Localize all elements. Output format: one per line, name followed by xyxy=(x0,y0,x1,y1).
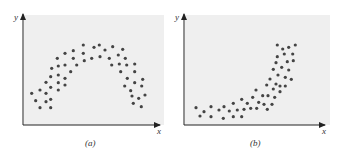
data-point xyxy=(217,108,220,111)
data-point xyxy=(242,108,245,111)
data-point xyxy=(137,97,140,100)
data-point xyxy=(283,52,286,55)
data-point xyxy=(257,101,260,104)
data-point xyxy=(49,75,52,78)
data-point xyxy=(82,43,85,46)
data-point xyxy=(274,82,277,85)
data-point xyxy=(194,106,197,109)
data-point xyxy=(141,78,144,81)
data-point xyxy=(124,57,127,60)
panel-b-x-label: x xyxy=(321,126,326,136)
data-point xyxy=(111,45,114,48)
data-point xyxy=(82,52,85,55)
data-point xyxy=(92,46,95,49)
data-point xyxy=(254,88,257,91)
data-point xyxy=(126,77,129,80)
data-point xyxy=(130,94,133,97)
data-point xyxy=(272,68,275,71)
data-point xyxy=(273,96,276,99)
data-point xyxy=(44,81,47,84)
data-point xyxy=(44,92,47,95)
data-point xyxy=(266,94,269,97)
data-point xyxy=(98,43,101,46)
data-point xyxy=(246,102,249,105)
data-point xyxy=(262,103,265,106)
data-point xyxy=(232,115,235,118)
data-point xyxy=(276,55,279,58)
panel-a-caption: (a) xyxy=(85,138,96,148)
data-point xyxy=(276,43,279,46)
data-point xyxy=(63,52,66,55)
data-point xyxy=(261,94,264,97)
data-point xyxy=(119,70,122,73)
data-point xyxy=(30,92,33,95)
data-point xyxy=(284,76,287,79)
data-point xyxy=(280,66,283,69)
data-point xyxy=(118,62,121,65)
data-point xyxy=(278,84,281,87)
data-point xyxy=(83,59,86,62)
data-point xyxy=(272,87,275,90)
data-point xyxy=(103,48,106,51)
data-point xyxy=(274,61,277,64)
data-point xyxy=(265,83,268,86)
data-point xyxy=(291,52,294,55)
data-point xyxy=(209,105,212,108)
panel-a-x-label: x xyxy=(156,126,161,136)
data-point xyxy=(292,59,295,62)
data-point xyxy=(133,70,136,73)
data-point xyxy=(69,70,72,73)
data-point xyxy=(38,88,41,91)
data-point xyxy=(123,84,126,87)
data-point xyxy=(284,84,287,87)
data-point xyxy=(49,98,52,101)
panel-b-y-label: y xyxy=(174,12,179,22)
data-point xyxy=(117,53,120,56)
data-point xyxy=(209,115,212,118)
data-point xyxy=(236,108,239,111)
panel-a-y-label: y xyxy=(13,12,18,22)
data-point xyxy=(143,93,146,96)
panel-b-caption: (b) xyxy=(250,138,261,148)
data-point xyxy=(132,102,135,105)
data-point xyxy=(110,63,113,66)
panel-b: y x (b) xyxy=(174,12,330,148)
data-point xyxy=(34,99,37,102)
data-point xyxy=(129,89,132,92)
data-point xyxy=(268,77,271,80)
data-point xyxy=(56,57,59,60)
data-point xyxy=(198,114,201,117)
data-point xyxy=(50,67,53,70)
data-point xyxy=(276,73,279,76)
data-point xyxy=(270,103,273,106)
data-point xyxy=(121,48,124,51)
panel-a: y x (a) xyxy=(13,12,164,148)
data-point xyxy=(44,100,47,103)
data-point xyxy=(202,110,205,113)
data-point xyxy=(228,109,231,112)
data-point xyxy=(249,107,252,110)
data-point xyxy=(294,43,297,46)
data-point xyxy=(278,90,281,93)
data-point xyxy=(266,108,269,111)
data-point xyxy=(287,46,290,49)
data-point xyxy=(232,102,235,105)
data-point xyxy=(240,115,243,118)
data-point xyxy=(57,64,60,67)
scatter-figure: y x (a) y x (b) xyxy=(0,0,342,154)
data-point xyxy=(133,81,136,84)
data-point xyxy=(140,84,143,87)
data-point xyxy=(255,107,258,110)
data-point xyxy=(49,86,52,89)
data-point xyxy=(75,63,78,66)
data-point xyxy=(57,88,60,91)
data-point xyxy=(57,81,60,84)
data-point xyxy=(72,49,75,52)
data-point xyxy=(72,57,75,60)
data-point xyxy=(287,68,290,71)
panel-a-background xyxy=(24,15,164,125)
data-point xyxy=(57,73,60,76)
data-point xyxy=(222,105,225,108)
data-point xyxy=(133,62,136,65)
data-point xyxy=(251,96,254,99)
